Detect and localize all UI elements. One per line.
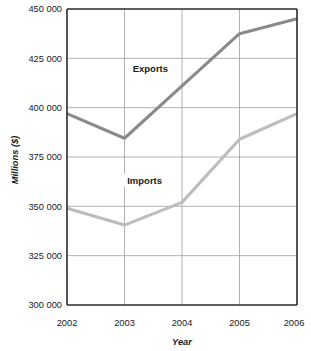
series-label-imports-group: Imports — [121, 174, 169, 187]
x-axis-tick-labels: 2002 2003 2004 2005 2006 — [57, 318, 305, 328]
chart-canvas: 450 000 425 000 400 000 375 000 350 000 … — [0, 0, 311, 351]
line-chart: 450 000 425 000 400 000 375 000 350 000 … — [0, 0, 311, 351]
x-tick-label: 2006 — [284, 318, 305, 328]
x-tick-label: 2004 — [172, 318, 193, 328]
y-tick-label: 400 000 — [28, 103, 62, 113]
x-tick-label: 2002 — [57, 318, 78, 328]
series-label-exports-group: Exports — [126, 62, 174, 75]
y-tick-label: 350 000 — [28, 202, 62, 212]
y-tick-label: 300 000 — [28, 300, 62, 310]
series-label-imports: Imports — [127, 175, 162, 186]
y-tick-label: 425 000 — [28, 54, 62, 64]
y-axis-title: Millions ($) — [10, 136, 20, 185]
x-tick-label: 2003 — [114, 318, 135, 328]
y-tick-label: 375 000 — [28, 152, 62, 162]
y-axis-tick-labels: 450 000 425 000 400 000 375 000 350 000 … — [28, 4, 62, 310]
series-label-exports: Exports — [133, 63, 168, 74]
x-tick-label: 2005 — [229, 318, 250, 328]
y-tick-label: 325 000 — [28, 251, 62, 261]
x-axis-title: Year — [172, 337, 193, 347]
y-tick-label: 450 000 — [28, 4, 62, 14]
